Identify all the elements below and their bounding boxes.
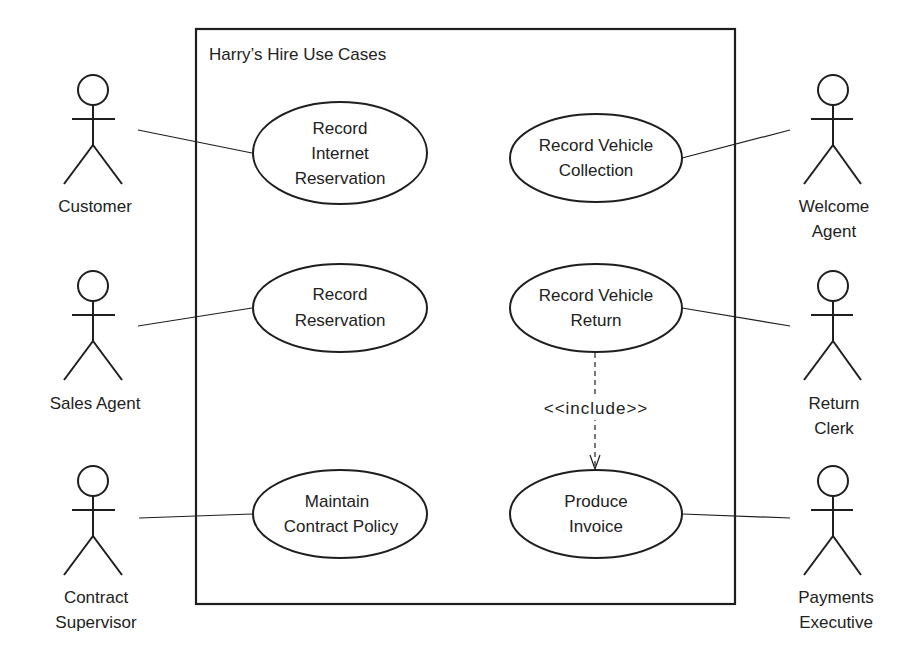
use-case-label: Internet <box>311 144 369 163</box>
use-case-label: Record Vehicle <box>539 286 653 305</box>
use-case-record-vehicle-collection[interactable]: Record Vehicle Collection <box>510 114 682 202</box>
actor-label: Clerk <box>814 419 854 438</box>
system-title: Harry’s Hire Use Cases <box>209 45 386 64</box>
actor-return-clerk[interactable]: Return Clerk <box>804 271 861 438</box>
use-case-produce-invoice[interactable]: Produce Invoice <box>510 470 682 558</box>
system-boundary <box>196 29 735 604</box>
use-case-maintain-contract-policy[interactable]: Maintain Contract Policy <box>253 470 427 558</box>
use-case-label: Collection <box>559 161 634 180</box>
use-case-record-vehicle-return[interactable]: Record Vehicle Return <box>510 264 682 352</box>
include-dependency: <<include>> <box>530 353 662 469</box>
use-case-label: Reservation <box>295 169 386 188</box>
actor-label: Payments <box>798 588 874 607</box>
use-case-label: Maintain <box>305 492 369 511</box>
actor-payments-executive[interactable]: Payments Executive <box>798 466 874 632</box>
actor-sales-agent[interactable]: Sales Agent <box>50 271 141 413</box>
actor-label: Customer <box>58 197 132 216</box>
use-case-label: Reservation <box>295 311 386 330</box>
use-case-label: Record <box>313 119 368 138</box>
stick-figure-icon <box>804 75 861 184</box>
actor-label: Sales Agent <box>50 394 141 413</box>
use-case-record-reservation[interactable]: Record Reservation <box>253 264 427 352</box>
use-case-label: Record <box>313 285 368 304</box>
actor-label: Agent <box>812 222 857 241</box>
association-lines <box>138 130 790 518</box>
use-case-record-internet-reservation[interactable]: Record Internet Reservation <box>253 102 427 204</box>
stick-figure-icon <box>804 271 861 380</box>
actor-label: Contract <box>64 588 129 607</box>
actor-label: Supervisor <box>55 613 137 632</box>
stick-figure-icon <box>64 271 122 380</box>
actor-label: Return <box>808 394 859 413</box>
use-case-label: Contract Policy <box>284 517 399 536</box>
use-case-label: Invoice <box>569 517 623 536</box>
use-case-label: Return <box>570 311 621 330</box>
actor-contract-supervisor[interactable]: Contract Supervisor <box>55 466 137 632</box>
actor-label: Welcome <box>799 197 870 216</box>
stick-figure-icon <box>64 466 122 575</box>
stick-figure-icon <box>64 75 122 184</box>
use-case-diagram: Harry’s Hire Use Cases <<include>> Recor… <box>0 0 907 661</box>
use-case-label: Record Vehicle <box>539 136 653 155</box>
stick-figure-icon <box>804 466 861 575</box>
actor-customer[interactable]: Customer <box>58 75 132 216</box>
include-label: <<include>> <box>544 399 649 418</box>
actor-welcome-agent[interactable]: Welcome Agent <box>799 75 870 241</box>
use-case-label: Produce <box>564 492 627 511</box>
actor-label: Executive <box>799 613 873 632</box>
